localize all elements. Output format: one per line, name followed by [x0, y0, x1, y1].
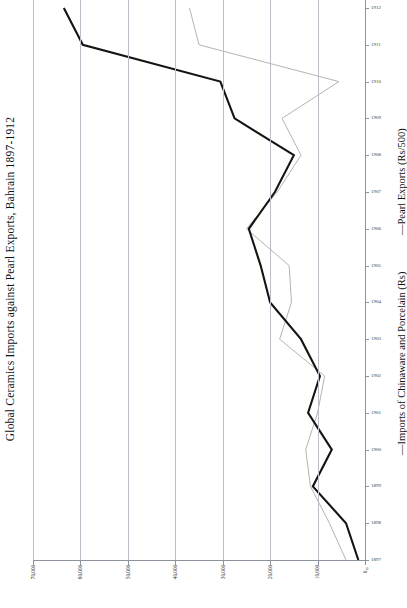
year-tick [365, 192, 369, 193]
year-tick-label: 1905 [371, 262, 381, 270]
gridline [80, 0, 81, 560]
year-tick [365, 560, 369, 561]
year-tick-label: 1908 [371, 151, 381, 159]
gridline [318, 0, 319, 560]
plot-area [33, 0, 365, 560]
year-tick [365, 45, 369, 46]
year-axis-line [365, 0, 366, 560]
year-tick-label: 1911 [371, 41, 381, 49]
legend-entry-imports: —Imports of Chinaware and Porcelain (Rs) [396, 272, 407, 455]
year-tick-label: 1901 [371, 409, 381, 417]
year-tick-label: 1909 [371, 114, 381, 122]
year-tick [365, 523, 369, 524]
gridline [33, 0, 34, 560]
value-tick-label: 10,000 [296, 566, 340, 578]
gridline [270, 0, 271, 560]
value-tick-label: 20,000 [248, 566, 292, 578]
page-title: Global Ceramics Imports against Pearl Ex… [4, 19, 26, 539]
value-tick-label: 0 [343, 566, 387, 578]
value-tick-label: 30,000 [201, 566, 245, 578]
value-tick-label: 60,000 [58, 566, 102, 578]
year-tick-label: 1907 [371, 188, 381, 196]
year-tick [365, 118, 369, 119]
series-line-pearl-exports [64, 8, 359, 560]
year-tick-label: 1898 [371, 519, 381, 527]
year-tick [365, 486, 369, 487]
gridline [223, 0, 224, 560]
value-tick-label: 70,000 [11, 566, 55, 578]
year-tick-label: 1906 [371, 225, 381, 233]
year-tick [365, 82, 369, 83]
year-tick [365, 339, 369, 340]
year-tick-label: 1904 [371, 298, 381, 306]
chart-title-container: Global Ceramics Imports against Pearl Ex… [0, 0, 26, 560]
value-axis-line [33, 560, 366, 561]
value-tick-label: 40,000 [153, 566, 197, 578]
gridline [175, 0, 176, 560]
year-tick [365, 266, 369, 267]
year-axis-zero-label: 0 [366, 566, 368, 571]
year-tick-label: 1912 [371, 4, 381, 12]
year-tick [365, 413, 369, 414]
series-canvas [33, 0, 365, 560]
year-tick [365, 8, 369, 9]
legend-entry-pearl-exports: —Pearl Exports (Rs/500) [396, 128, 407, 235]
series-line-imports-of-chinaware-and-porcelain [190, 8, 347, 560]
value-tick-label: 50,000 [106, 566, 150, 578]
year-tick-label: 1900 [371, 446, 381, 454]
year-tick [365, 302, 369, 303]
gridline [128, 0, 129, 560]
year-tick-label: 1903 [371, 335, 381, 343]
year-tick [365, 450, 369, 451]
year-tick-label: 1902 [371, 372, 381, 380]
year-tick-label: 1910 [371, 78, 381, 86]
year-tick-label: 1899 [371, 482, 381, 490]
year-tick [365, 376, 369, 377]
year-tick [365, 155, 369, 156]
year-tick [365, 229, 369, 230]
year-tick-label: 1897 [371, 556, 381, 564]
